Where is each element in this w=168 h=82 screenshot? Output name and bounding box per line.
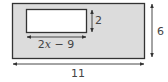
outer-width-label: 11	[71, 67, 85, 80]
outer-height-label: 6	[157, 25, 164, 38]
inner-rectangle	[27, 10, 87, 33]
diagram-canvas: 2 2x − 9 6 11	[0, 0, 168, 82]
inner-height-label: 2	[95, 14, 102, 27]
inner-width-label: 2x − 9	[38, 38, 74, 51]
